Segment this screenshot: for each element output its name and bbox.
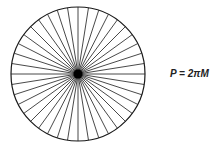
spoke [24, 35, 78, 74]
spoke [78, 74, 117, 128]
spoke [78, 35, 132, 74]
spoke [57, 74, 78, 138]
formula-label: P = 2πM [170, 68, 209, 79]
spoke [24, 74, 78, 113]
spoke [78, 53, 142, 74]
spoke [78, 74, 99, 138]
spoke [78, 74, 125, 121]
spoke [31, 74, 78, 121]
spoke [78, 20, 117, 74]
spoke [57, 10, 78, 74]
center-hub [74, 70, 83, 79]
spoke [14, 74, 78, 95]
spoke [78, 27, 125, 74]
spoke [14, 53, 78, 74]
spoke [39, 20, 78, 74]
spoke [78, 74, 142, 95]
spoke [78, 74, 132, 113]
spoke [31, 27, 78, 74]
spoke [78, 10, 99, 74]
spoke [39, 74, 78, 128]
